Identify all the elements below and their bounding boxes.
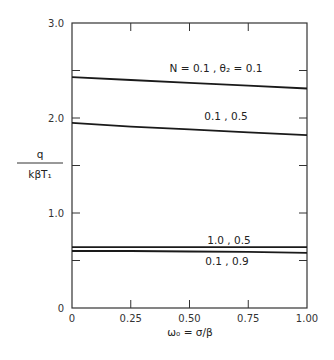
curve-label-4: 0.1 , 0.9 [205, 255, 248, 267]
x-tick-label: 0.75 [237, 313, 259, 324]
chart: 00.250.500.751.0001.02.03.0 N = 0.1 , θ₂… [0, 0, 334, 360]
curve-2 [72, 123, 307, 135]
curve-labels: N = 0.1 , θ₂ = 0.10.1 , 0.51.0 , 0.50.1 … [170, 62, 263, 267]
curve-label-2: 0.1 , 0.5 [204, 110, 247, 122]
curves [72, 77, 307, 253]
x-tick-label: 0 [69, 313, 75, 324]
curve-label-3: 1.0 , 0.5 [207, 234, 250, 246]
curve-label-1: N = 0.1 , θ₂ = 0.1 [170, 62, 263, 74]
curve-1 [72, 77, 307, 88]
x-tick-label: 0.50 [178, 313, 200, 324]
y-axis-label-denominator: kβT₁ [28, 168, 51, 180]
y-tick-label: 3.0 [48, 18, 64, 29]
curve-4 [72, 251, 307, 253]
y-tick-label: 0 [58, 303, 64, 314]
x-axis-label: ω₀ = σ/β [167, 326, 212, 338]
y-axis-label-numerator: q [37, 148, 44, 160]
x-tick-label: 1.00 [296, 313, 318, 324]
x-tick-label: 0.25 [120, 313, 142, 324]
y-axis-label: q kβT₁ [17, 148, 63, 180]
y-tick-label: 1.0 [48, 208, 64, 219]
y-tick-label: 2.0 [48, 113, 64, 124]
